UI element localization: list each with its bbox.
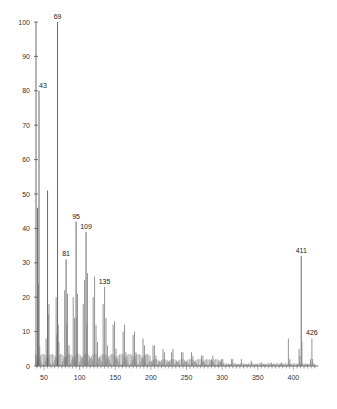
peak-label-95: 95: [72, 213, 80, 220]
y-tick-label: 40: [22, 225, 30, 232]
peak-label-109: 109: [80, 223, 92, 230]
peak-label-135: 135: [99, 278, 111, 285]
peak-label-426: 426: [306, 329, 318, 336]
x-tick-label: 150: [109, 374, 121, 381]
peak-label-81: 81: [62, 250, 70, 257]
y-tick-label: 10: [22, 328, 30, 335]
y-tick-label: 0: [26, 363, 30, 370]
x-tick-label: 300: [216, 374, 228, 381]
peak-label-69: 69: [54, 13, 62, 20]
y-tick-label: 100: [18, 19, 30, 26]
peak-labels: 43698195109135411426: [39, 13, 318, 336]
axes: 0102030405060708090100501001502002503003…: [18, 19, 318, 382]
peak-label-411: 411: [296, 247, 307, 254]
y-tick-label: 70: [22, 122, 30, 129]
y-tick-label: 80: [22, 87, 30, 94]
y-tick-label: 50: [22, 191, 30, 198]
x-tick-label: 350: [252, 374, 264, 381]
y-tick-label: 90: [22, 53, 30, 60]
peak-label-43: 43: [39, 82, 47, 89]
y-tick-label: 30: [22, 259, 30, 266]
x-tick-label: 200: [145, 374, 157, 381]
x-tick-label: 100: [74, 374, 86, 381]
x-tick-label: 250: [181, 374, 193, 381]
x-tick-label: 400: [288, 374, 300, 381]
x-tick-label: 50: [40, 374, 48, 381]
peaks: [35, 22, 314, 366]
mass-spectrum-chart: 0102030405060708090100501001502002503003…: [0, 0, 337, 409]
y-tick-label: 20: [22, 294, 30, 301]
y-tick-label: 60: [22, 156, 30, 163]
